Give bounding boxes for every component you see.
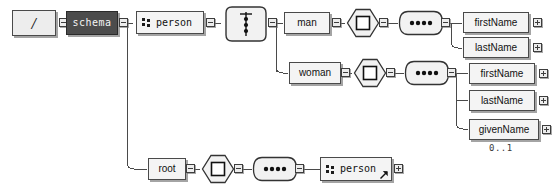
node-sequence-compositor-woman[interactable]	[404, 60, 450, 86]
pin-sequence-man[interactable]	[441, 18, 450, 27]
complex-type-icon	[326, 165, 335, 174]
node-choice-compositor[interactable]	[224, 5, 268, 43]
node-woman-firstname-label: firstName	[481, 69, 524, 79]
node-person-reference[interactable]: person	[320, 157, 392, 181]
expand-person-reference[interactable]	[394, 164, 403, 173]
pin-schema[interactable]	[119, 18, 128, 27]
node-woman-firstname[interactable]: firstName	[469, 63, 535, 84]
node-all-compositor-man[interactable]	[346, 8, 380, 38]
expand-man-firstname[interactable]	[533, 18, 542, 27]
expand-woman-givenname[interactable]	[542, 125, 551, 134]
node-woman-lastname-label: lastName	[481, 96, 523, 106]
node-man-firstname[interactable]: firstName	[463, 12, 529, 33]
node-woman-givenname-label: givenName	[479, 125, 530, 135]
node-sequence-compositor-man[interactable]	[398, 10, 444, 36]
node-man-lastname-label: lastName	[475, 43, 517, 53]
node-document-root-label: /	[32, 17, 36, 30]
pin-choice[interactable]	[268, 18, 277, 27]
schema-diagram-canvas: / schema person man	[0, 0, 554, 191]
cardinality-woman-givenname: 0..1	[489, 143, 513, 153]
node-woman-lastname[interactable]: lastName	[469, 90, 535, 111]
pin-all-man[interactable]	[379, 18, 388, 27]
node-man-lastname[interactable]: lastName	[463, 37, 529, 58]
pin-man[interactable]	[332, 18, 341, 27]
node-woman[interactable]: woman	[289, 62, 341, 84]
node-woman-label: woman	[299, 68, 331, 78]
complex-type-icon	[142, 18, 151, 27]
node-document-root[interactable]: /	[12, 10, 56, 36]
node-all-compositor-root[interactable]	[201, 154, 235, 184]
node-man-label: man	[297, 18, 316, 28]
node-root-element-label: root	[158, 164, 175, 174]
pin-all-root[interactable]	[234, 164, 243, 173]
node-person-reference-label: person	[340, 164, 376, 174]
pin-sequence-root[interactable]	[295, 164, 304, 173]
expand-man-lastname[interactable]	[533, 43, 542, 52]
node-person[interactable]: person	[136, 11, 204, 34]
node-all-compositor-woman[interactable]	[353, 58, 387, 88]
pin-person[interactable]	[206, 18, 215, 27]
node-woman-givenname[interactable]: givenName	[469, 119, 539, 140]
pin-all-woman[interactable]	[386, 68, 395, 77]
node-schema[interactable]: schema	[66, 11, 118, 35]
expand-woman-lastname[interactable]	[539, 96, 548, 105]
reference-arrow-icon	[379, 170, 389, 180]
expand-woman-firstname[interactable]	[539, 69, 548, 78]
node-root-element[interactable]: root	[148, 158, 186, 180]
node-man[interactable]: man	[284, 12, 330, 34]
pin-root-element[interactable]	[186, 164, 195, 173]
pin-woman[interactable]	[341, 68, 350, 77]
node-person-label: person	[156, 18, 192, 28]
node-schema-label: schema	[72, 18, 111, 28]
node-sequence-compositor-root[interactable]	[252, 156, 298, 182]
node-man-firstname-label: firstName	[475, 18, 518, 28]
pin-sequence-woman[interactable]	[447, 68, 456, 77]
